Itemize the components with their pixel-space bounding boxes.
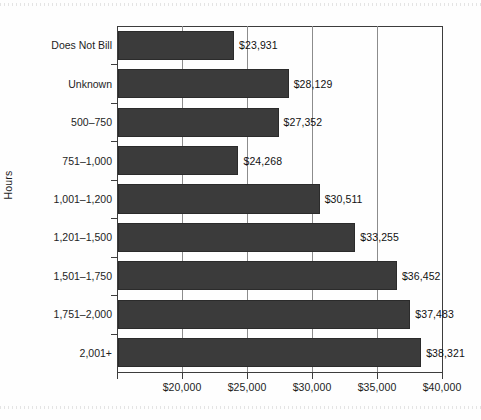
x-axis-tick (247, 372, 248, 379)
x-axis-tick (442, 372, 443, 379)
bar-value-label: $28,129 (294, 78, 333, 90)
bar-value-label: $36,452 (402, 270, 441, 282)
bar[interactable] (118, 108, 279, 137)
bar[interactable] (118, 338, 421, 367)
y-axis-label-3: 751–1,000 (0, 155, 112, 167)
x-axis-label-1: $25,000 (228, 381, 267, 393)
bar[interactable] (118, 31, 234, 60)
bar[interactable] (118, 184, 320, 213)
plot-frame-top (117, 26, 443, 27)
y-axis-label-2: 500–750 (0, 116, 112, 128)
y-axis-label-8: 2,001+ (0, 347, 112, 359)
bar-band: $24,268 (118, 146, 442, 175)
bar-band: $38,321 (118, 338, 442, 367)
y-axis-label-0: Does Not Bill (0, 39, 112, 51)
plot-frame-right (442, 26, 443, 373)
bar-band: $36,452 (118, 261, 442, 290)
y-axis-label-5: 1,201–1,500 (0, 231, 112, 243)
x-axis-tick (182, 372, 183, 379)
bar-band: $33,255 (118, 223, 442, 252)
x-axis-tick (312, 372, 313, 379)
bar-value-label: $27,352 (284, 116, 323, 128)
y-axis-label-1: Unknown (0, 78, 112, 90)
bar-value-label: $24,268 (243, 155, 282, 167)
bar-value-label: $38,321 (426, 347, 465, 359)
y-axis-label-6: 1,501–1,750 (0, 270, 112, 282)
bar[interactable] (118, 69, 289, 98)
x-axis-tick (377, 372, 378, 379)
bar-band: $28,129 (118, 69, 442, 98)
x-axis-label-0: $20,000 (163, 381, 202, 393)
bar-band: $30,511 (118, 184, 442, 213)
plot-frame-bottom (117, 372, 443, 373)
bar-value-label: $33,255 (360, 231, 399, 243)
bar[interactable] (118, 261, 397, 290)
bar-value-label: $37,483 (415, 308, 454, 320)
bar[interactable] (118, 300, 410, 329)
bar-band: $27,352 (118, 108, 442, 137)
bar[interactable] (118, 223, 355, 252)
y-axis-category-labels: Does Not BillUnknown500–750751–1,0001,00… (0, 0, 112, 420)
plot-area: $23,931$28,129$27,352$24,268$30,511$33,2… (117, 26, 443, 372)
bar-chart: Hours Does Not BillUnknown500–750751–1,0… (0, 0, 481, 420)
bar-band: $37,483 (118, 300, 442, 329)
x-axis-origin-tick (117, 372, 118, 379)
y-axis-label-7: 1,751–2,000 (0, 308, 112, 320)
x-axis-label-2: $30,000 (293, 381, 332, 393)
x-axis-label-4: $40,000 (423, 381, 462, 393)
bar-value-label: $30,511 (325, 193, 363, 205)
bar[interactable] (118, 146, 238, 175)
x-axis-label-3: $35,000 (358, 381, 397, 393)
bar-value-label: $23,931 (239, 39, 278, 51)
bar-band: $23,931 (118, 31, 442, 60)
y-axis-label-4: 1,001–1,200 (0, 193, 112, 205)
